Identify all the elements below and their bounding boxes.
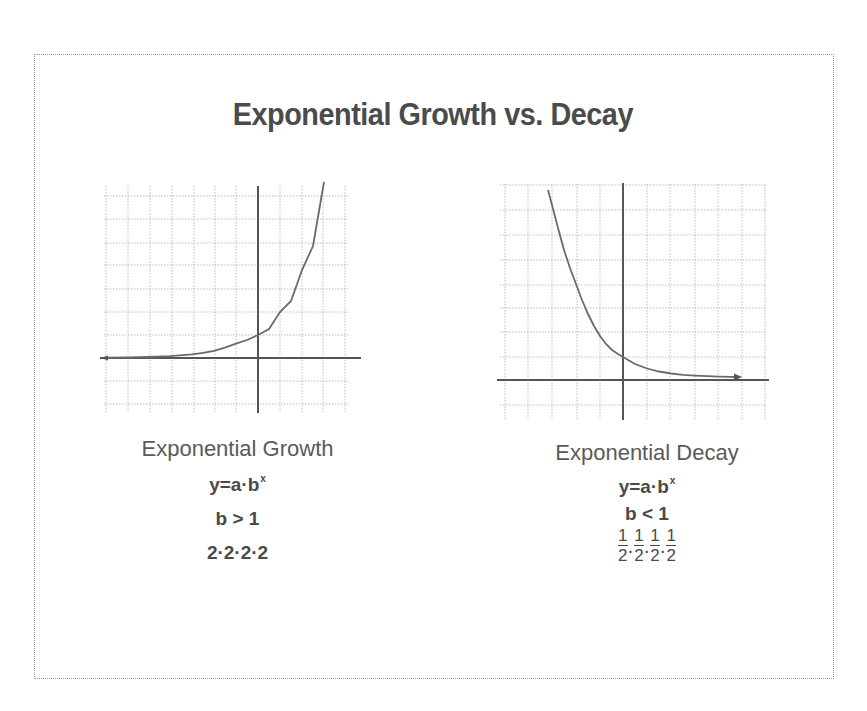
growth-graph <box>100 182 361 413</box>
graphs-canvas <box>0 0 867 711</box>
decay-formula: y=a·bx <box>522 476 772 496</box>
decay-caption: Exponential Decay y=a·bx b < 1 12·12·12·… <box>522 440 772 564</box>
decay-formula-exponent: x <box>670 475 676 486</box>
growth-caption: Exponential Growth y=a·bx b > 1 2·2·2·2 <box>100 436 375 562</box>
decay-product: 12·12·12·12 <box>522 527 772 564</box>
growth-formula-base: y=a·b <box>209 474 259 495</box>
growth-condition: b > 1 <box>100 509 375 528</box>
growth-formula-exponent: x <box>260 473 266 484</box>
decay-formula-base: y=a·b <box>619 476 669 497</box>
half-fraction: 12 <box>650 527 659 564</box>
half-fraction: 12 <box>634 527 643 564</box>
decay-grid <box>500 184 767 420</box>
half-fraction: 12 <box>666 527 675 564</box>
half-fraction: 12 <box>618 527 627 564</box>
growth-grid <box>104 186 348 412</box>
growth-curve-line <box>104 182 324 358</box>
decay-graph <box>497 183 769 420</box>
decay-condition: b < 1 <box>522 504 772 523</box>
growth-arrow-left-icon <box>101 356 108 361</box>
growth-name: Exponential Growth <box>100 436 375 462</box>
growth-formula: y=a·bx <box>100 474 375 494</box>
decay-name: Exponential Decay <box>522 440 772 466</box>
growth-product: 2·2·2·2 <box>100 543 375 562</box>
